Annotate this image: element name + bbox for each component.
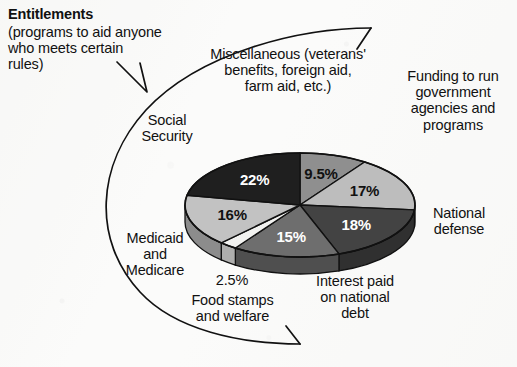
pct-label-interest: 15%	[276, 228, 305, 245]
label-medicaid-medicare: Medicaid and Medicare	[100, 230, 210, 279]
label-interest-on-debt: Interest paid on national debt	[300, 273, 410, 322]
pct-label-medicaid: 16%	[217, 206, 246, 223]
label-funding: Funding to run government agencies and p…	[393, 68, 513, 133]
label-national-defense: National defense	[404, 205, 514, 237]
pct-label-social: 22%	[240, 171, 269, 188]
pct-label-miscellaneous: 9.5%	[304, 165, 337, 182]
label-food-stamps: Food stamps and welfare	[170, 292, 295, 324]
pct-label-national: 18%	[342, 216, 371, 233]
figure-canvas: 9.5%17%18%15%16%22% Entitlements (progra…	[0, 0, 517, 367]
label-miscellaneous: Miscellaneous (veterans' benefits, forei…	[193, 46, 383, 95]
pct-label-funding: 17%	[350, 182, 379, 199]
label-social-security: Social Security	[112, 112, 222, 144]
entitlements-description: (programs to aid anyone who meets certai…	[8, 24, 198, 73]
entitlements-title: Entitlements	[8, 6, 93, 22]
